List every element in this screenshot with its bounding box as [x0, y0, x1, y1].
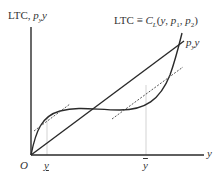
y-axis-label: LTC, pyy	[8, 10, 47, 24]
revenue-line	[31, 41, 184, 155]
tick-y-high: y	[143, 160, 148, 171]
cost-curve-label: LTC ≡ CL(y, p1, p2)	[114, 15, 198, 29]
origin-label: O	[20, 160, 28, 171]
tick-y-low: y	[44, 160, 49, 171]
tangent-y-high	[112, 67, 183, 119]
cost-curve	[31, 33, 182, 155]
x-axis-label: y	[207, 148, 212, 159]
revenue-line-label: pyy	[186, 37, 200, 51]
